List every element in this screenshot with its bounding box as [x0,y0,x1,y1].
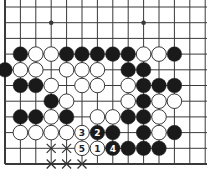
black-stone [29,78,44,93]
white-stone [106,110,121,125]
white-stone: 5 [75,141,90,156]
white-stone [59,125,74,140]
white-stone [29,63,44,78]
black-stone [121,47,136,62]
white-stone [59,63,74,78]
move-number-label: 1 [94,144,100,154]
black-stone [136,63,151,78]
white-stone [44,78,59,93]
black-stone [121,141,136,156]
black-stone [106,125,121,140]
black-stone [152,141,167,156]
black-stone: 2 [90,125,105,140]
white-stone [90,78,105,93]
white-stone [44,125,59,140]
black-stone [167,47,182,62]
black-stone [136,141,151,156]
white-stone [44,47,59,62]
white-stone: 3 [75,125,90,140]
move-number-label: 3 [79,128,85,138]
white-stone [75,63,90,78]
white-stone [152,94,167,109]
black-stone [59,110,74,125]
white-stone [59,94,74,109]
white-stone [121,78,136,93]
move-number-label: 2 [94,128,100,138]
black-stone [167,78,182,93]
white-stone [152,125,167,140]
white-stone [13,125,28,140]
white-stone [29,47,44,62]
black-stone [59,47,74,62]
go-board: 32514 [0,0,207,178]
black-stone [121,63,136,78]
white-stone [44,110,59,125]
black-stone [29,110,44,125]
black-stone [136,110,151,125]
black-stone [121,110,136,125]
white-stone [167,94,182,109]
black-stone [106,47,121,62]
black-stone [75,47,90,62]
white-stone: 1 [90,141,105,156]
white-stone [136,47,151,62]
white-stone [152,47,167,62]
black-stone [152,78,167,93]
white-stone [90,110,105,125]
black-stone [167,125,182,140]
white-stone [13,63,28,78]
white-stone [121,94,136,109]
black-stone [90,47,105,62]
move-number-label: 5 [79,144,85,154]
black-stone [0,63,12,78]
black-stone [13,110,28,125]
black-stone: 4 [106,141,121,156]
black-stone [13,47,28,62]
black-stone [136,94,151,109]
white-stone [152,110,167,125]
black-stone [136,78,151,93]
star-point-icon [49,20,54,25]
black-stone [13,78,28,93]
white-stone [29,125,44,140]
black-stone [136,125,151,140]
star-point-icon [141,20,146,25]
white-stone [75,78,90,93]
white-stone [90,63,105,78]
move-number-label: 4 [110,144,116,154]
black-stone [44,94,59,109]
